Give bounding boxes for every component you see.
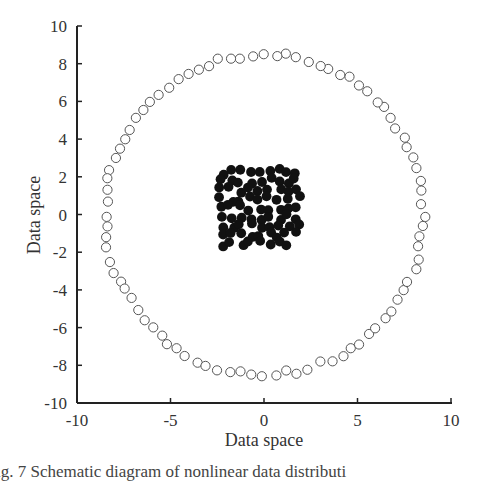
ring-point: [109, 268, 118, 277]
y-tick-label: -6: [53, 319, 67, 338]
ring-point: [145, 97, 154, 106]
ring-point: [131, 113, 140, 122]
cluster-point: [247, 219, 257, 229]
cluster-point: [226, 165, 236, 175]
y-tick-label: -4: [53, 281, 68, 300]
ring-point: [303, 365, 312, 374]
cluster-point: [234, 219, 244, 229]
y-tick-label: -8: [53, 356, 67, 375]
y-tick-label: 2: [59, 168, 68, 187]
ring-point: [272, 371, 281, 380]
y-tick-label: 10: [50, 17, 67, 36]
cluster-point: [255, 167, 265, 177]
ring-point: [421, 212, 430, 221]
ring-point: [165, 83, 174, 92]
ring-point: [281, 49, 290, 58]
ring-point: [412, 265, 421, 274]
cluster-point: [283, 194, 293, 204]
ring-point: [345, 72, 354, 81]
ring-point: [102, 233, 111, 242]
cluster-point: [279, 228, 289, 238]
cluster-point: [235, 165, 245, 175]
ring-point: [247, 370, 256, 379]
cluster-point: [214, 192, 224, 202]
ring-point: [149, 323, 158, 332]
ring-point: [162, 340, 171, 349]
ring-point: [125, 125, 134, 134]
ring-point: [418, 221, 427, 230]
ring-point: [371, 324, 380, 333]
cluster-point: [253, 195, 263, 205]
ring-point: [174, 75, 183, 84]
ring-point: [415, 232, 424, 241]
ring-point: [316, 357, 325, 366]
cluster-point: [235, 200, 245, 210]
y-tick-label: -2: [53, 243, 67, 262]
y-tick-label: 0: [59, 206, 68, 225]
cluster-point: [224, 237, 234, 247]
ring-point: [291, 53, 300, 62]
ring-point: [412, 164, 421, 173]
cluster-point: [233, 178, 243, 188]
ring-point: [417, 186, 426, 195]
ring-point: [257, 372, 266, 381]
cluster-point: [236, 228, 246, 238]
ring-point: [194, 65, 203, 74]
y-axis-label: Data space: [24, 176, 44, 254]
cluster-point: [291, 202, 301, 212]
cluster-point: [289, 174, 299, 184]
ring-point: [363, 87, 372, 96]
ring-point: [226, 368, 235, 377]
ring-point: [103, 185, 112, 194]
ring-point: [259, 50, 268, 59]
ring-point: [201, 361, 210, 370]
ring-point: [235, 54, 244, 63]
cluster-point: [281, 167, 291, 177]
ring-point: [127, 293, 136, 302]
ring-point: [101, 243, 110, 252]
ring-point: [103, 222, 112, 231]
cluster-point: [263, 212, 273, 222]
ring-point: [416, 176, 425, 185]
ring-point: [282, 366, 291, 375]
y-tick-label: 6: [59, 92, 68, 111]
cluster-point: [295, 191, 305, 201]
ring-point: [339, 352, 348, 361]
ring-point: [402, 143, 411, 152]
ring-point: [204, 62, 213, 71]
cluster-point: [262, 191, 272, 201]
ring-point: [393, 295, 402, 304]
ring-point: [328, 357, 337, 366]
ring-point: [354, 340, 363, 349]
ring-point: [354, 81, 363, 90]
ring-point: [212, 366, 221, 375]
cluster-point: [282, 209, 292, 219]
ring-point: [105, 257, 114, 266]
cluster-point: [226, 228, 236, 238]
ring-point: [121, 135, 130, 144]
ring-point: [336, 70, 345, 79]
ring-point: [134, 305, 143, 314]
cluster-point: [223, 200, 233, 210]
x-tick-label: -10: [66, 411, 89, 430]
x-tick-label: 5: [353, 411, 362, 430]
cluster-point: [291, 227, 301, 237]
cluster-point: [214, 183, 224, 193]
ring-point: [409, 153, 418, 162]
ring-point: [115, 144, 124, 153]
cluster-point: [281, 240, 291, 250]
ring-point: [249, 52, 258, 61]
x-tick-label: -5: [163, 411, 177, 430]
ring-point: [180, 351, 189, 360]
y-tick-label: -10: [44, 394, 67, 413]
ring-point: [103, 197, 112, 206]
cluster-point: [216, 174, 226, 184]
ring-point: [184, 69, 193, 78]
y-tick-label: 4: [59, 130, 68, 149]
cluster-point: [266, 240, 276, 250]
ring-point: [154, 90, 163, 99]
ring-point: [387, 307, 396, 316]
cluster-point: [255, 236, 265, 246]
ring-point: [139, 105, 148, 114]
ring-point: [158, 331, 167, 340]
